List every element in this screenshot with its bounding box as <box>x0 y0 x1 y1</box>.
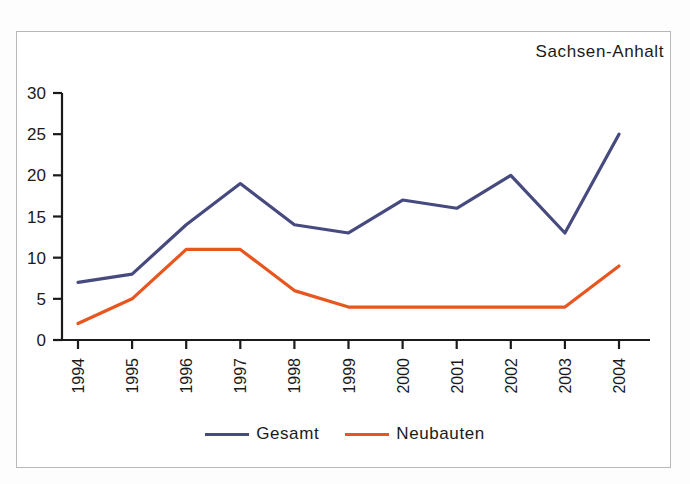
x-tick-label: 1995 <box>124 358 141 394</box>
x-tick-label: 1999 <box>341 358 358 394</box>
x-tick-label: 1994 <box>70 358 87 394</box>
x-tick-label: 2001 <box>449 358 466 394</box>
y-tick-label: 0 <box>37 331 46 350</box>
x-tick-label: 1996 <box>178 358 195 394</box>
y-tick-label: 20 <box>27 166 46 185</box>
x-tick-label: 2000 <box>395 358 412 394</box>
legend-swatch-neubauten <box>345 433 389 436</box>
y-tick-label: 15 <box>27 208 46 227</box>
x-tick-label: 2004 <box>611 358 628 394</box>
plot-area: 051015202530 199419951996199719981999200… <box>0 0 690 484</box>
chart-legend: Gesamt Neubauten <box>0 424 690 444</box>
y-tick-label: 30 <box>27 84 46 103</box>
legend-item-neubauten: Neubauten <box>345 424 485 444</box>
y-axis: 051015202530 <box>27 84 62 350</box>
legend-item-gesamt: Gesamt <box>205 424 319 444</box>
x-tick-label: 2003 <box>557 358 574 394</box>
chart-container: Sachsen-Anhalt 051015202530 199419951996… <box>0 0 690 484</box>
y-tick-label: 5 <box>37 290 46 309</box>
series-line-gesamt <box>78 134 619 282</box>
legend-label-neubauten: Neubauten <box>396 424 485 444</box>
x-tick-label: 1997 <box>232 358 249 394</box>
x-tick-label: 1998 <box>286 358 303 394</box>
series-lines <box>78 134 619 323</box>
series-line-neubauten <box>78 249 619 323</box>
x-axis: 1994199519961997199819992000200120022003… <box>62 340 650 394</box>
x-tick-label: 2002 <box>503 358 520 394</box>
legend-swatch-gesamt <box>205 433 249 436</box>
y-tick-label: 25 <box>27 125 46 144</box>
y-tick-label: 10 <box>27 249 46 268</box>
legend-label-gesamt: Gesamt <box>256 424 319 444</box>
